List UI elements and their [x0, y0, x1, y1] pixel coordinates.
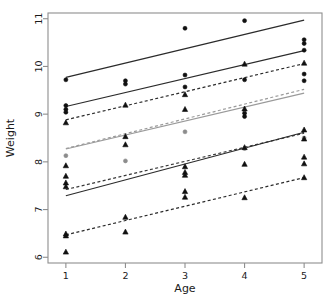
y-tick-label: 10 [34, 60, 45, 72]
data-point [64, 78, 68, 82]
x-tick-label: 1 [63, 270, 69, 281]
data-point [302, 72, 306, 76]
y-tick-label: 11 [34, 13, 45, 25]
data-point [243, 19, 247, 23]
data-point [302, 48, 306, 52]
data-point [302, 79, 306, 83]
x-tick-label: 5 [301, 270, 307, 281]
data-point [64, 104, 68, 108]
data-point [183, 85, 187, 89]
data-point [64, 110, 68, 114]
data-point [123, 82, 127, 86]
data-point [243, 115, 247, 119]
x-tick-label: 3 [182, 270, 188, 281]
x-axis-label: Age [174, 282, 196, 295]
data-point [302, 42, 306, 46]
x-tick-label: 4 [242, 270, 248, 281]
data-point [183, 26, 187, 30]
y-tick-label: 7 [34, 207, 45, 213]
y-tick-label: 6 [34, 254, 45, 260]
scatter-plot: 67891011 12345 Age Weight [0, 0, 336, 301]
y-tick-label: 9 [34, 111, 45, 117]
data-point [183, 130, 187, 134]
data-point [302, 38, 306, 42]
y-axis-label: Weight [4, 118, 17, 157]
y-tick-label: 8 [34, 159, 45, 165]
chart-container: 67891011 12345 Age Weight [0, 0, 336, 301]
x-tick-label: 2 [122, 270, 128, 281]
data-point [64, 154, 68, 158]
plot-background [0, 0, 336, 301]
data-point [183, 73, 187, 77]
data-point [243, 78, 247, 82]
data-point [123, 159, 127, 163]
